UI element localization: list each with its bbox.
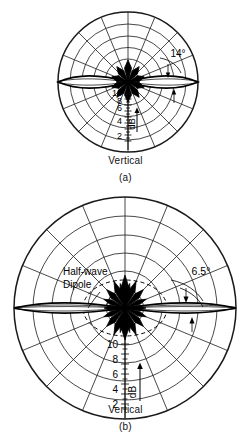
radial-tick-b-6: 6 xyxy=(112,369,118,380)
radial-tick-b-4: 4 xyxy=(112,384,118,395)
radial-tick-b-8: 8 xyxy=(112,354,118,365)
radial-tick-labels-b: 10 8 6 4 2 xyxy=(107,339,119,410)
polar-chart-a: 10 8 6 4 2 dB 14° xyxy=(0,0,251,196)
panel-label-a: (a) xyxy=(0,172,251,183)
radial-tick-a-6: 6 xyxy=(117,103,122,113)
radial-tick-b-10: 10 xyxy=(107,339,119,350)
half-wave-dipole-label-line1: Half-wave xyxy=(63,266,108,277)
antenna-radiation-pattern-figure: 10 8 6 4 2 dB 14° Vertical (a) xyxy=(0,0,251,445)
half-wave-dipole-label-line2: Dipole xyxy=(63,279,92,290)
panel-label-b: (b) xyxy=(0,421,251,432)
axis-label-a: Vertical xyxy=(0,155,251,166)
radial-unit-label-a: dB xyxy=(126,118,137,130)
axis-label-b: Vertical xyxy=(0,404,251,415)
polar-plot-panel-b: 10 8 6 4 2 dB Half-wave Dipole xyxy=(0,196,251,445)
half-wave-dipole-label: Half-wave Dipole xyxy=(63,266,108,290)
polar-plot-panel-a: 10 8 6 4 2 dB 14° Vertical (a) xyxy=(0,0,251,196)
minor-lobes-rosette-b xyxy=(103,275,147,340)
beamwidth-label-b: 6.5° xyxy=(192,265,211,277)
radial-unit-label-b: dB xyxy=(127,386,138,399)
radial-tick-a-4: 4 xyxy=(117,116,122,126)
beamwidth-label-a: 14° xyxy=(170,48,185,59)
radial-tick-a-2: 2 xyxy=(117,131,122,141)
